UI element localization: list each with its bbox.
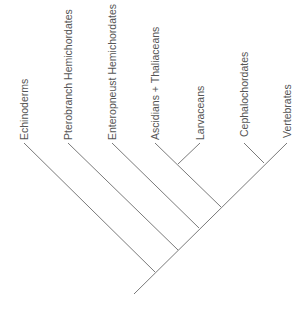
trunk-branch: [134, 143, 287, 294]
label-enteropneust-hemichordates: Enteropneust Hemichordates: [106, 4, 118, 140]
cladogram: Echinoderms Pterobranch Hemichordates En…: [0, 0, 306, 311]
branch-echinoderms: [24, 143, 155, 272]
label-echinoderms: Echinoderms: [18, 79, 30, 140]
branch-larvaceans: [178, 143, 200, 164]
branch-cephalochordates: [244, 143, 264, 163]
label-cephalochordates: Cephalochordates: [238, 52, 250, 137]
branch-pterobranch: [68, 143, 178, 250]
label-ascidians-thaliaceans: Ascidians + Thaliaceans: [149, 27, 161, 140]
label-pterobranch-hemichordates: Pterobranch Hemichordates: [62, 9, 74, 140]
label-vertebrates: Vertebrates: [281, 84, 293, 138]
branch-ascidians: [155, 143, 221, 207]
label-larvaceans: Larvaceans: [194, 86, 206, 140]
